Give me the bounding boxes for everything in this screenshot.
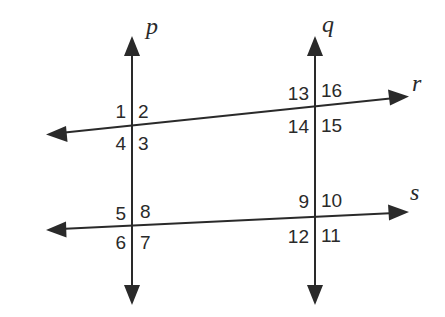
- parallel-lines-transversal-diagram: p q r s 1 2 3 4 5 8 7 6 13 16 15 14 9 10…: [0, 0, 445, 317]
- arrowhead-up-icon: [124, 36, 140, 56]
- angle-label-10: 10: [321, 190, 342, 211]
- angle-label-8: 8: [140, 201, 151, 222]
- line-label-s: s: [410, 179, 419, 205]
- angle-label-15: 15: [321, 115, 342, 136]
- arrowhead-left-icon: [46, 126, 68, 142]
- angle-label-12: 12: [288, 226, 309, 247]
- angle-label-9: 9: [298, 191, 309, 212]
- angle-label-3: 3: [138, 133, 149, 154]
- angle-label-7: 7: [140, 232, 151, 253]
- arrowhead-right-icon: [388, 90, 409, 106]
- angle-label-11: 11: [321, 225, 341, 246]
- arrowhead-down-icon: [307, 285, 323, 305]
- line-label-q: q: [322, 11, 334, 37]
- line-r: [46, 90, 409, 143]
- arrowhead-down-icon: [124, 285, 140, 305]
- arrowhead-left-icon: [46, 222, 67, 238]
- line-s: [46, 205, 409, 238]
- line-q: [307, 36, 323, 305]
- angle-label-14: 14: [288, 116, 310, 137]
- angle-label-16: 16: [321, 80, 342, 101]
- angle-label-13: 13: [288, 83, 309, 104]
- angle-label-1: 1: [115, 101, 126, 122]
- line-p: [124, 36, 140, 305]
- line-label-r: r: [412, 70, 422, 96]
- angle-label-4: 4: [115, 133, 126, 154]
- line-label-p: p: [144, 13, 158, 39]
- angle-label-2: 2: [138, 101, 149, 122]
- angle-label-5: 5: [115, 203, 126, 224]
- angle-label-6: 6: [115, 232, 126, 253]
- arrowhead-right-icon: [388, 205, 409, 221]
- arrowhead-up-icon: [307, 36, 323, 56]
